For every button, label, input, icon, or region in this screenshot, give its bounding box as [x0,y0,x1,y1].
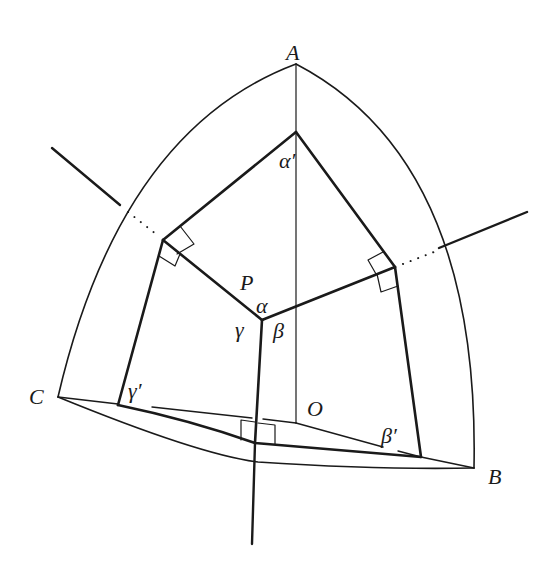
diagram-canvas [0,0,558,575]
polar-edge-bottom [118,405,421,457]
dotted-left [128,212,156,234]
extension-left [52,148,120,205]
perp-P-right [262,267,395,320]
label-P: P [240,272,253,294]
label-beta-prime: β′ [381,425,397,447]
right-angle-marker-bottom-right [258,423,275,444]
right-angle-marker-right-bottom [377,274,398,292]
label-C: C [29,386,44,408]
arc-CB-outer [58,397,474,468]
polar-edge-top-left [163,132,296,240]
extension-bottom [252,443,255,544]
polar-edge-right [395,267,421,457]
perp-P-down [255,320,262,443]
label-A: A [286,42,299,64]
label-gamma-prime: γ′ [128,380,141,402]
label-B: B [488,466,501,488]
right-angle-marker-bottom [241,420,255,440]
label-gamma: γ [235,319,244,341]
label-O: O [307,398,323,420]
right-angle-marker-right-top [368,252,383,274]
label-alpha: α [256,295,268,317]
label-beta: β [273,320,284,342]
polar-edge-top-right [296,132,395,267]
label-alpha-prime: α′ [279,150,295,172]
dotted-right [403,252,434,264]
line-gamma-O-b [263,419,296,423]
right-angle-marker-left-bottom [159,254,180,266]
line-O-beta [296,423,383,447]
extension-right [439,212,527,248]
bottom-to-B [421,457,474,468]
right-angle-marker-left-top [177,226,194,254]
